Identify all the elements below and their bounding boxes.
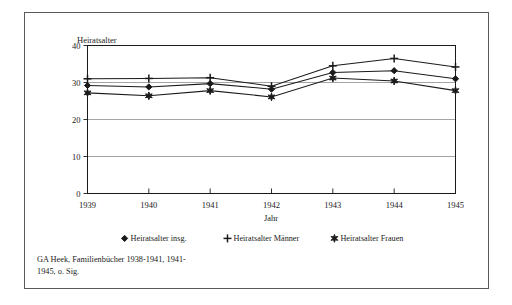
y-tick-label-40: 40 — [72, 41, 81, 51]
y-axis-labels-group: 010203040 — [72, 41, 81, 199]
y-axis-title: Heiratsalter — [77, 35, 117, 45]
series-1-point-1945 — [452, 76, 458, 82]
series-1-point-1944-diamond-marker — [391, 68, 397, 74]
series-group — [84, 54, 460, 100]
x-tick-label-1940: 1940 — [140, 200, 157, 210]
series-2-point-1943 — [329, 62, 337, 70]
x-tick-label-1941: 1941 — [202, 200, 219, 210]
source-note-line-2: 1945, o. Sig. — [37, 267, 79, 276]
x-tick-label-1939: 1939 — [79, 200, 96, 210]
series-1-point-1945-diamond-marker — [452, 76, 458, 82]
series-2-point-1939 — [84, 75, 92, 83]
x-tick-label-1944: 1944 — [386, 200, 404, 210]
y-tick-label-30: 30 — [72, 78, 81, 88]
series-2-point-1945 — [452, 63, 460, 71]
y-tick-label-10: 10 — [72, 152, 81, 162]
series-2-point-1940 — [145, 74, 153, 82]
figure-frame: Heiratsalter 010203040 19391940194119421… — [24, 12, 489, 289]
legend-item-2: Heiratsalter Männer — [224, 234, 300, 243]
x-axis-labels-group: 1939194019411942194319441945 — [79, 200, 464, 210]
series-2-point-1944 — [390, 54, 398, 62]
legend-item-3: Heiratsalter Frauen — [331, 234, 403, 243]
y-tick-label-20: 20 — [72, 115, 81, 125]
series-1-point-1940 — [146, 84, 152, 90]
gridlines-group — [88, 46, 456, 194]
legend-marker-2 — [224, 234, 232, 242]
legend-marker-3-star-marker — [331, 235, 338, 243]
y-axis-ticks-group — [84, 46, 88, 194]
legend-marker-1-diamond-marker — [122, 235, 128, 241]
chart-legend: Heiratsalter insg.Heiratsalter MännerHei… — [122, 234, 404, 243]
source-note-line-1: GA Heek, Familienbücher 1938-1941, 1941- — [37, 255, 186, 264]
legend-marker-3 — [331, 235, 338, 243]
x-axis-ticks-group — [88, 189, 456, 194]
series-1-point-1940-diamond-marker — [146, 84, 152, 90]
x-tick-label-1942: 1942 — [263, 200, 280, 210]
series-1-point-1944 — [391, 68, 397, 74]
line-chart: Heiratsalter 010203040 19391940194119421… — [25, 13, 490, 290]
x-tick-label-1945: 1945 — [447, 200, 464, 210]
series-2-point-1941 — [206, 74, 214, 82]
legend-label-3: Heiratsalter Frauen — [340, 234, 403, 243]
chart-area: Heiratsalter 010203040 19391940194119421… — [25, 13, 490, 290]
legend-marker-1 — [122, 235, 128, 241]
x-tick-label-1943: 1943 — [324, 200, 341, 210]
x-axis-title: Jahr — [264, 213, 278, 223]
y-tick-label-0: 0 — [76, 189, 80, 199]
legend-item-1: Heiratsalter insg. — [122, 234, 187, 243]
legend-label-1: Heiratsalter insg. — [131, 234, 187, 243]
legend-label-2: Heiratsalter Männer — [234, 234, 300, 243]
